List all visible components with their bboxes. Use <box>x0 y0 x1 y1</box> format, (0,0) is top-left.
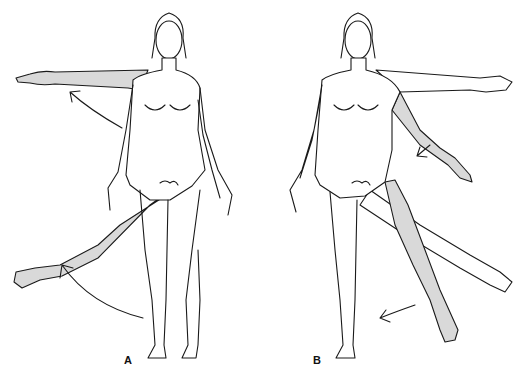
figure-b-shaded-arm <box>392 92 472 182</box>
figure-a-left-arm <box>198 88 232 215</box>
figure-b-torso <box>315 58 400 198</box>
figure-a <box>14 13 232 358</box>
figure-b-raised-leg <box>360 190 512 292</box>
figure-a-leg-arrow <box>60 265 143 318</box>
figure-a-torso <box>126 58 205 200</box>
figure-b-shaded-leg <box>385 180 458 342</box>
figure-a-standing-leg <box>140 190 168 358</box>
figure-b-standing-leg <box>330 192 357 358</box>
figure-b <box>290 13 512 358</box>
figure-a-head <box>156 21 182 59</box>
figure-b-head <box>345 21 371 59</box>
figure-b-leg-arrow <box>380 305 415 322</box>
figure-a-raised-arm <box>16 70 148 90</box>
panel-label-a: A <box>124 354 132 366</box>
panel-label-b: B <box>313 354 321 366</box>
figure-a-left-leg <box>182 190 200 358</box>
figure-a-arm-arrow <box>70 91 122 128</box>
figure-illustration <box>0 0 526 375</box>
